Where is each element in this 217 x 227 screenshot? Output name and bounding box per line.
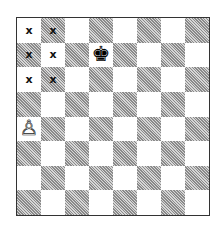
square-e2[interactable] [113,166,137,191]
square-a3[interactable] [17,141,41,166]
square-e7[interactable] [113,43,137,68]
square-a1[interactable] [17,190,41,215]
square-mark: x [49,25,56,36]
square-mark: x [25,49,32,60]
square-c8[interactable] [65,18,89,43]
square-g4[interactable] [161,117,185,142]
square-b8[interactable]: x [41,18,65,43]
square-d7[interactable]: ♚ [89,43,113,68]
square-f2[interactable] [137,166,161,191]
square-d4[interactable] [89,117,113,142]
square-h3[interactable] [185,141,209,166]
square-c2[interactable] [65,166,89,191]
square-h5[interactable] [185,92,209,117]
square-g3[interactable] [161,141,185,166]
square-h2[interactable] [185,166,209,191]
square-b4[interactable] [41,117,65,142]
square-a6[interactable]: x [17,67,41,92]
square-d5[interactable] [89,92,113,117]
square-f8[interactable] [137,18,161,43]
square-e8[interactable] [113,18,137,43]
square-g2[interactable] [161,166,185,191]
square-h8[interactable] [185,18,209,43]
square-b7[interactable]: x [41,43,65,68]
square-c3[interactable] [65,141,89,166]
square-g6[interactable] [161,67,185,92]
square-e1[interactable] [113,190,137,215]
square-f1[interactable] [137,190,161,215]
black-king-icon[interactable]: ♚ [92,44,111,65]
square-g5[interactable] [161,92,185,117]
square-d8[interactable] [89,18,113,43]
square-mark: x [49,74,56,85]
square-g7[interactable] [161,43,185,68]
square-c1[interactable] [65,190,89,215]
square-f4[interactable] [137,117,161,142]
square-a8[interactable]: x [17,18,41,43]
square-d1[interactable] [89,190,113,215]
square-a2[interactable] [17,166,41,191]
square-f3[interactable] [137,141,161,166]
square-b1[interactable] [41,190,65,215]
square-a5[interactable] [17,92,41,117]
square-e3[interactable] [113,141,137,166]
square-b3[interactable] [41,141,65,166]
square-c6[interactable] [65,67,89,92]
square-f5[interactable] [137,92,161,117]
square-h7[interactable] [185,43,209,68]
square-b5[interactable] [41,92,65,117]
square-mark: x [25,25,32,36]
square-d2[interactable] [89,166,113,191]
square-f6[interactable] [137,67,161,92]
square-mark: x [49,49,56,60]
square-mark: x [25,74,32,85]
square-g1[interactable] [161,190,185,215]
square-c4[interactable] [65,117,89,142]
square-h1[interactable] [185,190,209,215]
square-e6[interactable] [113,67,137,92]
square-d3[interactable] [89,141,113,166]
square-f7[interactable] [137,43,161,68]
square-e4[interactable] [113,117,137,142]
square-c5[interactable] [65,92,89,117]
square-b2[interactable] [41,166,65,191]
white-pawn-icon[interactable]: ♙ [20,118,39,139]
square-h6[interactable] [185,67,209,92]
square-a4[interactable]: ♙ [17,117,41,142]
square-a7[interactable]: x [17,43,41,68]
chess-board: xxxx♚xx♙ [16,17,210,216]
square-d6[interactable] [89,67,113,92]
square-b6[interactable]: x [41,67,65,92]
square-e5[interactable] [113,92,137,117]
square-c7[interactable] [65,43,89,68]
square-g8[interactable] [161,18,185,43]
square-h4[interactable] [185,117,209,142]
